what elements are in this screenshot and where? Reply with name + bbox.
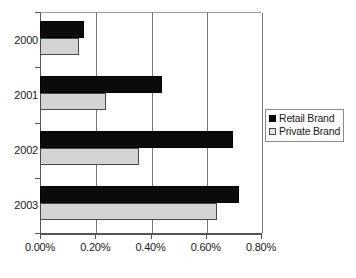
y-axis-label-2000: 2000: [14, 34, 38, 46]
y-axis-tick: [35, 233, 40, 234]
bar-2001-private-brand: [40, 93, 106, 110]
x-axis-tick-label: 0.60%: [191, 241, 221, 253]
y-axis-tick: [35, 178, 40, 179]
x-axis-tick: [261, 233, 262, 239]
legend-label-private-brand: Private Brand: [279, 125, 340, 138]
legend-label-retail-brand: Retail Brand: [279, 112, 334, 125]
bar-group-2003: [40, 178, 261, 233]
legend-item-retail-brand: Retail Brand: [269, 112, 340, 125]
bar-2000-private-brand: [40, 38, 79, 55]
x-axis-tick-label: 0.00%: [25, 241, 55, 253]
bar-2001-retail-brand: [40, 76, 162, 93]
x-axis-tick: [40, 233, 41, 239]
chart-legend: Retail Brand Private Brand: [265, 109, 344, 142]
x-axis-tick: [206, 233, 207, 239]
y-axis-label-2003: 2003: [14, 199, 38, 211]
x-axis-tick-label: 0.20%: [80, 241, 110, 253]
bar-2002-private-brand: [40, 148, 139, 165]
x-axis-tick-label: 0.80%: [246, 241, 276, 253]
gridline: [262, 13, 263, 233]
y-axis-tick: [35, 67, 40, 68]
bar-2002-retail-brand: [40, 131, 233, 148]
bar-2000-retail-brand: [40, 21, 84, 38]
bar-group-2000: [40, 12, 261, 67]
y-axis-tick: [35, 12, 40, 13]
y-axis-tick: [35, 123, 40, 124]
x-axis-tick: [151, 233, 152, 239]
x-axis-tick: [95, 233, 96, 239]
y-axis-label-2001: 2001: [14, 89, 38, 101]
legend-swatch-retail-brand: [269, 115, 276, 122]
y-axis-label-2002: 2002: [14, 144, 38, 156]
bar-2003-private-brand: [40, 203, 217, 220]
legend-swatch-private-brand: [269, 128, 276, 135]
x-axis-tick-label: 0.40%: [135, 241, 165, 253]
bars-layer: [40, 12, 261, 233]
bar-group-2001: [40, 67, 261, 122]
bar-group-2002: [40, 123, 261, 178]
bar-2003-retail-brand: [40, 186, 239, 203]
legend-item-private-brand: Private Brand: [269, 125, 340, 138]
bar-chart: 0.00%0.20%0.40%0.60%0.80%200020012002200…: [0, 0, 356, 278]
